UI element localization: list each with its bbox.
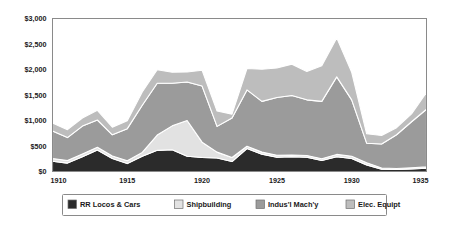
chart-svg: $0$500$1,000$1,500$2,000$2,500$3,000 191… <box>0 0 449 226</box>
y-tick-label: $500 <box>31 142 47 151</box>
stacked-area-chart: $0$500$1,000$1,500$2,000$2,500$3,000 191… <box>0 0 449 226</box>
legend-swatch-icon <box>68 200 77 209</box>
y-tick-label: $0 <box>39 167 47 176</box>
chart-canvas: $0$500$1,000$1,500$2,000$2,500$3,000 191… <box>0 0 449 226</box>
x-tick-label: 1935 <box>413 176 429 185</box>
legend-swatch-icon <box>256 200 265 209</box>
x-tick-label: 1930 <box>344 176 360 185</box>
y-tick-label: $2,500 <box>25 40 47 49</box>
x-tick-label: 1910 <box>51 176 67 185</box>
x-tick-label: 1920 <box>194 176 210 185</box>
legend-item-3[interactable]: Elec. Equipt <box>346 200 401 209</box>
x-tick-label: 1925 <box>269 176 285 185</box>
y-tick-label: $2,000 <box>25 65 47 74</box>
legend-label: Elec. Equipt <box>358 200 401 209</box>
legend-swatch-icon <box>175 200 184 209</box>
legend-label: Indus'l Mach'y <box>268 200 319 209</box>
legend-swatch-icon <box>346 200 355 209</box>
y-tick-label: $3,000 <box>25 14 47 23</box>
legend-item-1[interactable]: Shipbuilding <box>175 200 232 209</box>
y-tick-label: $1,000 <box>25 116 47 125</box>
legend-label: Shipbuilding <box>187 200 232 209</box>
x-tick-label: 1915 <box>119 176 135 185</box>
y-tick-label: $1,500 <box>25 91 47 100</box>
legend-label: RR Locos & Cars <box>80 200 140 209</box>
